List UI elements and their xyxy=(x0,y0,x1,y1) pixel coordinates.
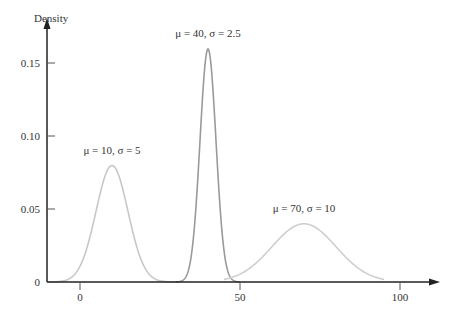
y-tick-label: 0 xyxy=(35,276,41,288)
density-chart: Density05010000.050.100.15 μ = 10, σ = 5… xyxy=(0,0,450,317)
y-tick-label: 0.10 xyxy=(21,130,41,142)
density-curve-2 xyxy=(176,49,240,282)
density-curve-3 xyxy=(224,224,384,280)
x-axis-arrow-icon xyxy=(429,279,440,286)
y-axis-label: Density xyxy=(34,12,69,24)
density-curves xyxy=(48,49,384,282)
y-tick-label: 0.15 xyxy=(21,57,41,69)
y-tick-label: 0.05 xyxy=(21,203,41,215)
x-tick-label: 50 xyxy=(235,291,247,303)
curve-label-2: μ = 40, σ = 2.5 xyxy=(175,27,241,39)
x-tick-label: 100 xyxy=(392,291,409,303)
x-tick-label: 0 xyxy=(77,291,83,303)
curve-label-1: μ = 10, σ = 5 xyxy=(83,144,141,156)
density-curve-1 xyxy=(48,166,176,282)
curve-label-3: μ = 70, σ = 10 xyxy=(273,202,336,214)
